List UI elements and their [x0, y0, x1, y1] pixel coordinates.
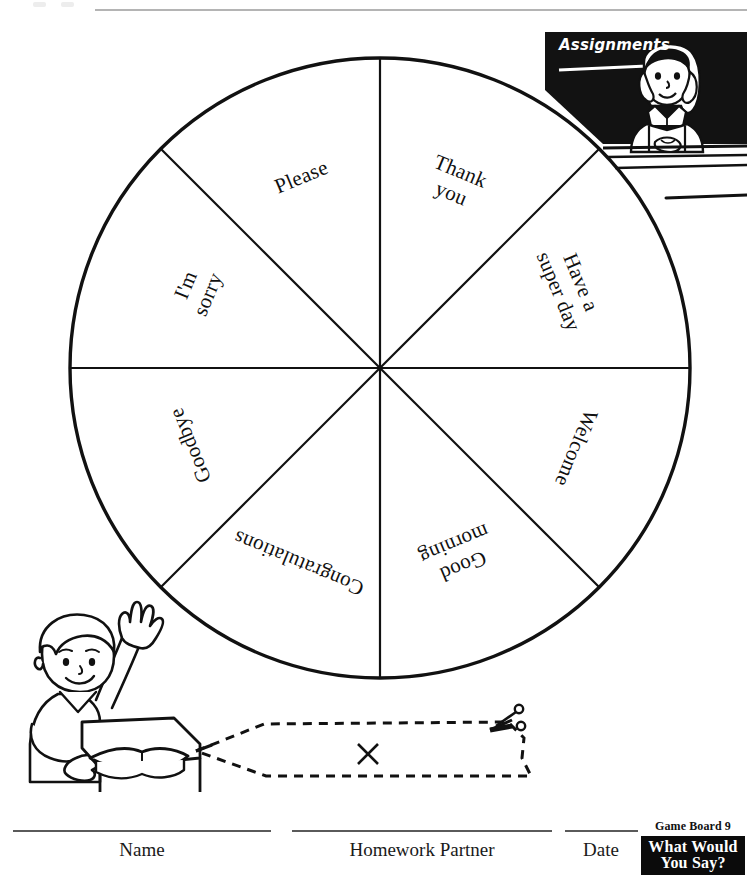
game-board-number: Game Board 9 — [641, 819, 745, 834]
name-field-label: Name — [13, 839, 271, 861]
student-illustration — [4, 572, 204, 792]
partner-field-label: Homework Partner — [292, 839, 552, 861]
footer: Name Homework Partner Date Game Board 9 … — [0, 806, 747, 875]
worksheet-page: Thank you Have a super day Welcome Good … — [0, 0, 747, 875]
scissors-icon — [490, 705, 525, 730]
desk-edge — [607, 155, 747, 157]
pivot-x-mark — [358, 744, 378, 764]
student-graphic — [4, 572, 204, 792]
name-field-line[interactable] — [13, 830, 271, 832]
blackboard-heading: Assignments — [559, 36, 670, 54]
partner-field-line[interactable] — [292, 830, 552, 832]
desk-edge — [603, 146, 747, 148]
publisher-badge: Game Board 9 What Would You Say? — [641, 819, 745, 875]
date-field-label: Date — [556, 839, 646, 861]
teacher-illustration: Assignments — [543, 26, 747, 206]
desk-edge — [615, 165, 747, 168]
spinner-arrow-cutout[interactable] — [186, 696, 556, 800]
series-title-badge: What Would You Say? — [641, 836, 745, 875]
cutout-graphic — [186, 696, 556, 800]
date-field-line[interactable] — [565, 830, 638, 832]
